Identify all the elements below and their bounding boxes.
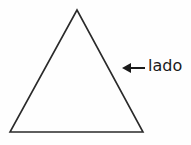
triangle-shape — [10, 10, 143, 132]
side-label: lado — [148, 56, 182, 75]
arrow-left-icon — [122, 63, 145, 73]
